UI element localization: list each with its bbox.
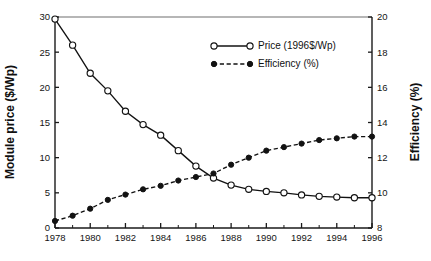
- datapoint: [316, 193, 322, 199]
- legend-marker-efficiency-start: [211, 61, 216, 66]
- legend-label-price: Price (1996$/Wp): [258, 40, 336, 51]
- datapoint: [352, 134, 357, 139]
- ticklabel-x: 1986: [185, 232, 206, 243]
- ticklabel-x: 1978: [44, 232, 65, 243]
- ticklabel-x: 1988: [221, 232, 242, 243]
- datapoint: [122, 108, 128, 114]
- ticklabel-left: 10: [39, 152, 50, 163]
- ticklabel-x: 1980: [80, 232, 101, 243]
- ticklabel-right: 12: [377, 152, 388, 163]
- datapoint: [158, 132, 164, 138]
- y-axis-title-left: Module price ($/Wp): [3, 65, 17, 179]
- legend-label-efficiency: Efficiency (%): [258, 58, 319, 69]
- datapoint: [88, 206, 93, 211]
- datapoint: [87, 70, 93, 76]
- datapoint: [246, 155, 251, 160]
- datapoint: [246, 186, 252, 192]
- ticklabel-right: 18: [377, 47, 388, 58]
- ticklabel-left: 30: [39, 11, 50, 22]
- datapoint: [298, 192, 304, 198]
- ticklabel-x: 1984: [150, 232, 171, 243]
- datapoint: [281, 190, 287, 196]
- datapoint: [123, 192, 128, 197]
- x-axis-ticks: 1978198019821984198619881990199219941996: [44, 223, 382, 243]
- ticklabel-x: 1992: [291, 232, 312, 243]
- dual-axis-line-chart: 051015202530 8101214161820 1978198019821…: [0, 0, 431, 261]
- datapoint: [105, 88, 111, 94]
- datapoint: [334, 136, 339, 141]
- datapoint: [211, 171, 216, 176]
- datapoint: [140, 187, 145, 192]
- datapoint: [193, 163, 199, 169]
- left-axis-ticks: 051015202530: [39, 11, 59, 233]
- ticklabel-right: 14: [377, 117, 388, 128]
- datapoint: [52, 16, 58, 22]
- ticklabel-right: 20: [377, 11, 388, 22]
- ticklabel-left: 25: [39, 47, 50, 58]
- legend: Price (1996$/Wp) Efficiency (%): [211, 40, 336, 69]
- datapoint: [281, 145, 286, 150]
- datapoint: [175, 148, 181, 154]
- ticklabel-x: 1990: [256, 232, 277, 243]
- datapoint: [369, 134, 374, 139]
- datapoint: [317, 137, 322, 142]
- datapoint: [140, 122, 146, 128]
- ticklabel-left: 20: [39, 82, 50, 93]
- ticklabel-x: 1982: [115, 232, 136, 243]
- datapoint: [351, 195, 357, 201]
- legend-marker-price-start: [211, 43, 217, 49]
- ticklabel-left: 15: [39, 117, 50, 128]
- datapoint: [70, 213, 75, 218]
- datapoint: [193, 174, 198, 179]
- datapoint: [229, 162, 234, 167]
- datapoint: [158, 183, 163, 188]
- datapoint: [228, 182, 234, 188]
- ticklabel-left: 5: [45, 187, 50, 198]
- datapoint: [70, 42, 76, 48]
- y-axis-title-right: Efficiency (%): [408, 83, 422, 162]
- ticklabel-x: 1996: [361, 232, 382, 243]
- datapoint: [334, 194, 340, 200]
- chart-figure: 051015202530 8101214161820 1978198019821…: [0, 0, 431, 261]
- datapoint: [263, 188, 269, 194]
- datapoint: [176, 178, 181, 183]
- legend-marker-efficiency-end: [247, 61, 252, 66]
- ticklabel-right: 16: [377, 82, 388, 93]
- ticklabel-x: 1994: [326, 232, 347, 243]
- datapoint: [299, 141, 304, 146]
- datapoint: [52, 218, 57, 223]
- ticklabel-right: 10: [377, 187, 388, 198]
- legend-marker-price-end: [247, 43, 253, 49]
- datapoint: [369, 195, 375, 201]
- datapoint: [264, 148, 269, 153]
- datapoint: [105, 197, 110, 202]
